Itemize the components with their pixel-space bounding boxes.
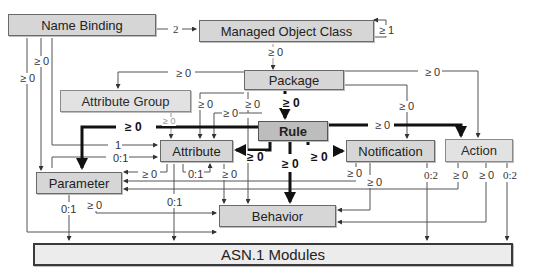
edge-label-rule-param: ≥ 0 [124,121,143,133]
edge-label-action-1: ≥ 0 [452,170,469,181]
rule-label: Rule [279,124,307,139]
asn1-modules-label: ASN.1 Modules [221,246,325,263]
edge-label-pkg-attr-2: ≥ 0 [222,108,239,119]
edge-label-pkg-notif: ≥ 0 [398,101,415,112]
action-label: Action [461,143,497,158]
edge-label-action-2: ≥ 0 [478,170,495,181]
edge-label-moc-self: ≥ 1 [378,25,395,36]
edge-label-pkg-attr-1: ≥ 0 [197,99,214,110]
edge-label-pkg-rule: ≥ 0 [282,97,301,109]
edge-label-moc-pkg: ≥ 0 [267,47,284,58]
package-label: Package [269,73,320,88]
edge-label-attr-asn: 0:1 [166,197,183,208]
edge-label-nb-left-2: ≥ 0 [19,73,36,84]
edge-label-attr-param: ≥ 0 [141,169,158,180]
edge-label-attr-01: 0:1 [187,169,204,180]
edge-label-pkg-behavior: ≥ 0 [244,99,261,110]
action-box: Action [445,139,513,162]
edge-notif-param [124,163,356,181]
edge-rule-attr [236,142,270,150]
edge-label-param-beh: ≥ 0 [86,200,103,211]
attribute-group-label: Attribute Group [81,94,169,109]
edge-label-attr-beh: ≥ 0 [221,169,238,180]
edge-label-action-asn: 0:2 [502,170,518,181]
package-box: Package [244,70,344,90]
name-binding-label: Name Binding [41,18,123,33]
managed-object-class-box: Managed Object Class [199,20,374,42]
attribute-group-box: Attribute Group [60,90,191,112]
edge-label-nb-left-1: ≥ 0 [33,56,50,67]
edge-label-rule-behavior: ≥ 0 [281,158,300,170]
edge-label-notif-2: ≥ 0 [366,177,383,188]
edge-label-notif-1: ≥ 0 [346,168,363,179]
edge-label-rule-attr: ≥ 0 [246,151,265,163]
rule-box: Rule [258,121,328,141]
managed-object-class-label: Managed Object Class [221,24,353,39]
edge-label-rule-notif: ≥ 0 [310,151,329,163]
attribute-label: Attribute [172,144,220,159]
edge-param-attr [52,157,157,168]
attribute-box: Attribute [160,140,233,162]
edge-label-nb-attr-2: 0:1 [112,153,129,164]
edge-label-param-asn: 0:1 [60,204,77,215]
edge-label-pkg-action: ≥ 0 [424,67,441,78]
edge-label-notif-asn: 0:2 [423,170,439,181]
edge-label-nb-attr: 1 [114,140,122,151]
behavior-box: Behavior [219,205,336,227]
edge-label-pkg-attrgroup: ≥ 0 [175,68,192,79]
behavior-label: Behavior [252,209,303,224]
parameter-box: Parameter [36,172,122,194]
parameter-label: Parameter [49,176,110,191]
asn1-modules-box: ASN.1 Modules [33,243,513,266]
edge-label-rule-action: ≥ 0 [374,120,391,131]
edge-rule-action [328,125,461,136]
name-binding-box: Name Binding [8,14,156,36]
notification-box: Notification [346,140,435,162]
notification-label: Notification [358,144,422,159]
edge-label-nb-moc: 2 [172,24,180,35]
edge-param-beh [96,208,216,213]
edge-label-attrgroup-attr: ≥ 0 [162,117,176,126]
